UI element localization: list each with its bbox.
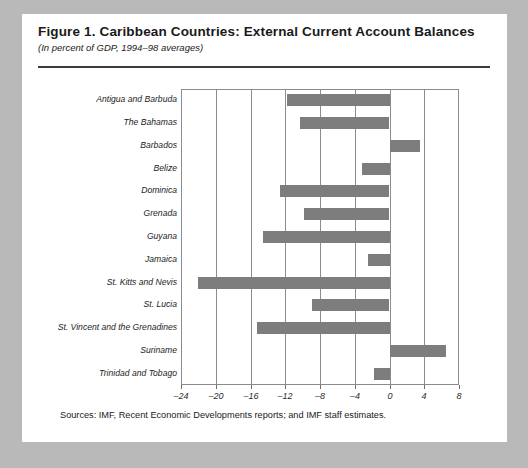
bar bbox=[304, 208, 389, 220]
bar bbox=[390, 345, 446, 357]
source-note: Sources: IMF, Recent Economic Developmen… bbox=[60, 410, 386, 420]
axis-tick-label: –12 bbox=[265, 391, 305, 401]
axis-tick-mark bbox=[424, 385, 425, 389]
bars bbox=[22, 14, 507, 442]
axis-tick-label: –4 bbox=[335, 391, 375, 401]
bar bbox=[362, 163, 390, 175]
bar bbox=[312, 299, 389, 311]
axis-tick-mark bbox=[459, 385, 460, 389]
bar bbox=[257, 322, 390, 334]
bar bbox=[280, 185, 389, 197]
axis-tick-mark bbox=[355, 385, 356, 389]
bar bbox=[300, 117, 389, 129]
axis-tick-label: –8 bbox=[300, 391, 340, 401]
chart-plot-area: Antigua and BarbudaThe BahamasBarbadosBe… bbox=[22, 14, 507, 442]
axis-tick-mark bbox=[216, 385, 217, 389]
axis-tick-mark bbox=[181, 385, 182, 389]
axis-tick-mark bbox=[320, 385, 321, 389]
bar bbox=[390, 140, 420, 152]
bar bbox=[287, 94, 390, 106]
axis-tick-mark bbox=[285, 385, 286, 389]
axis-tick-label: –24 bbox=[161, 391, 201, 401]
axis-tick-label: –20 bbox=[196, 391, 236, 401]
figure-card: Figure 1. Caribbean Countries: External … bbox=[22, 14, 507, 442]
axis-tick-mark bbox=[390, 385, 391, 389]
bar bbox=[368, 254, 390, 266]
axis-tick-mark bbox=[251, 385, 252, 389]
axis-tick-label: 4 bbox=[404, 391, 444, 401]
bar bbox=[198, 277, 390, 289]
bar bbox=[374, 368, 390, 380]
axis-tick-label: 8 bbox=[439, 391, 479, 401]
bar bbox=[263, 231, 390, 243]
